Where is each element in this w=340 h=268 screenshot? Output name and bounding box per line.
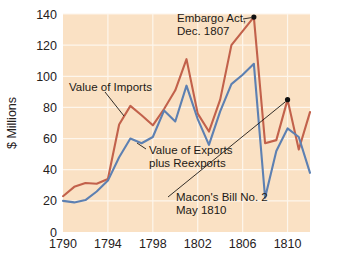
x-tick-label-1790: 1790 xyxy=(49,237,77,251)
y-tick-label-100: 100 xyxy=(36,70,57,84)
x-tick-label-1806: 1806 xyxy=(229,237,257,251)
x-tick-label-1794: 1794 xyxy=(94,237,122,251)
macons-bill-label-line1: Macon's Bill No. 2 xyxy=(176,191,268,203)
value-of-exports-label-line2: plus Reexports xyxy=(149,157,226,169)
y-tick-label-80: 80 xyxy=(43,101,57,115)
macons-bill-label-line2: May 1810 xyxy=(176,204,227,216)
x-axis-tick-labels: 179017941798180218061810 xyxy=(49,237,301,251)
y-axis-tick-labels: 020406080100120140 xyxy=(36,8,57,240)
y-tick-label-120: 120 xyxy=(36,39,57,53)
x-tick-label-1798: 1798 xyxy=(139,237,167,251)
embargo-act-label-line2: Dec. 1807 xyxy=(177,25,229,37)
macons-bill-marker xyxy=(285,97,290,102)
value-of-imports-label: Value of Imports xyxy=(69,81,152,93)
y-tick-label-20: 20 xyxy=(43,194,57,208)
y-axis-title: $ Millions xyxy=(5,97,19,149)
x-tick-label-1810: 1810 xyxy=(274,237,302,251)
trade-value-line-chart: 020406080100120140 179017941798180218061… xyxy=(0,0,340,268)
embargo-act-label-line1: Embargo Act, xyxy=(177,12,246,24)
y-tick-label-40: 40 xyxy=(43,163,57,177)
chart-container: 020406080100120140 179017941798180218061… xyxy=(0,0,340,268)
value-of-exports-label-line1: Value of Exports xyxy=(149,144,233,156)
y-tick-label-140: 140 xyxy=(36,8,57,22)
y-tick-label-60: 60 xyxy=(43,132,57,146)
x-tick-label-1802: 1802 xyxy=(184,237,212,251)
embargo-act-marker xyxy=(251,15,256,20)
